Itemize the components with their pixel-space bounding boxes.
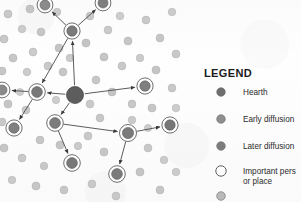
legend-item-label-line2: or place [243,177,273,186]
legend-title: LEGEND [204,67,252,79]
legend-panel: LEGEND HearthEarly diffusionLater diffus… [0,0,301,202]
legend-marker-filled-dot-gray [217,142,226,151]
legend-item-label: Early diffusion [243,115,295,124]
legend-item: Later diffusion [217,142,295,151]
legend-item-label: Important pers [243,167,296,176]
legend-item-list: HearthEarly diffusionLater diffusionImpo… [216,88,296,201]
legend-item-label: Hearth [243,88,268,97]
legend-item: Early diffusion [217,115,295,124]
figure-canvas: LEGEND HearthEarly diffusionLater diffus… [0,0,301,202]
legend-item-label: Later diffusion [243,142,295,151]
legend-item: Hearth [217,88,268,97]
legend-marker-open-circle [216,166,226,176]
legend-marker-filled-dot-medium [217,115,226,124]
legend-item [217,192,226,201]
legend-item: Important persor place [216,166,296,186]
legend-marker-filled-dot-light [217,192,226,201]
legend-marker-filled-dot-dark [217,88,226,97]
